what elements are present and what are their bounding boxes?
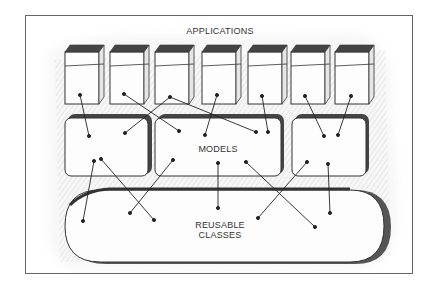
reusable-label-line2: CLASSES bbox=[180, 230, 260, 240]
application-box-5 bbox=[248, 45, 287, 104]
reusable-classes-label: REUSABLE CLASSES bbox=[180, 220, 260, 240]
application-boxes bbox=[65, 45, 374, 104]
application-box-4 bbox=[202, 45, 241, 104]
application-box-3 bbox=[155, 45, 194, 104]
model-box-1 bbox=[65, 114, 152, 176]
reusable-label-line1: REUSABLE bbox=[180, 220, 260, 230]
application-box-2 bbox=[110, 45, 149, 104]
models-label: MODELS bbox=[188, 144, 248, 154]
application-box-7 bbox=[335, 45, 374, 104]
application-box-1 bbox=[65, 45, 104, 104]
applications-label: APPLICATIONS bbox=[180, 26, 260, 36]
application-box-6 bbox=[291, 45, 330, 104]
model-box-3 bbox=[292, 114, 369, 176]
